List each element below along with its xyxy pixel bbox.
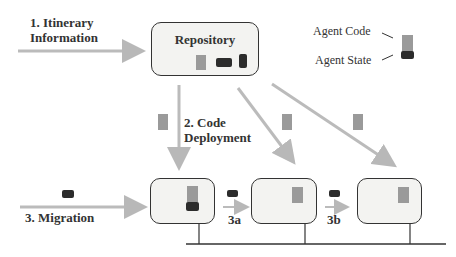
agent-state-icon: [186, 202, 199, 211]
agent-code-icon: [398, 187, 409, 203]
legend-agent-state-label: Agent State: [315, 53, 371, 67]
step-3b-label: 3b: [327, 212, 341, 227]
agent-code-icon: [282, 114, 292, 130]
code-deployment-label: 2. Code Deployment: [184, 115, 251, 145]
migration-label: 3. Migration: [25, 210, 94, 225]
step-3a-label: 3a: [228, 212, 241, 227]
agent-code-icon: [196, 55, 206, 70]
agent-state-icon: [216, 58, 232, 67]
agent-state-icon: [227, 190, 238, 197]
host-2-box: [251, 178, 317, 224]
host-3-box: [357, 178, 422, 224]
legend-agent-code-label: Agent Code: [313, 24, 371, 38]
agent-state-icon: [62, 190, 74, 198]
repository-label: Repository: [152, 32, 258, 47]
agent-code-icon: [292, 187, 303, 203]
agent-state-icon: [239, 54, 247, 68]
itinerary-label: 1. Itinerary Information: [30, 15, 98, 45]
legend-agent-state-icon: [401, 51, 414, 59]
agent-code-icon: [158, 114, 168, 130]
agent-code-icon: [187, 186, 198, 202]
repository-box: Repository: [151, 22, 259, 76]
agent-code-icon: [353, 114, 363, 130]
agent-state-icon: [329, 190, 340, 197]
legend-agent-code-icon: [402, 35, 413, 52]
host-1-box: [150, 178, 215, 224]
